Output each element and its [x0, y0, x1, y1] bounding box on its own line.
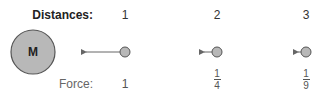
force-2-denominator: 4 [214, 80, 220, 91]
force-label: Force: [0, 77, 93, 91]
object-2-icon [212, 47, 222, 57]
force-value-3: 1 9 [296, 68, 316, 91]
force-3-numerator: 1 [303, 68, 309, 79]
force-value-1: 1 [115, 77, 135, 91]
force-value-2: 1 4 [207, 68, 227, 91]
force-2-numerator: 1 [214, 68, 220, 79]
object-3-icon [301, 47, 311, 57]
object-1-icon [120, 47, 130, 57]
force-3-denominator: 9 [303, 80, 309, 91]
mass-label: M [22, 45, 44, 59]
